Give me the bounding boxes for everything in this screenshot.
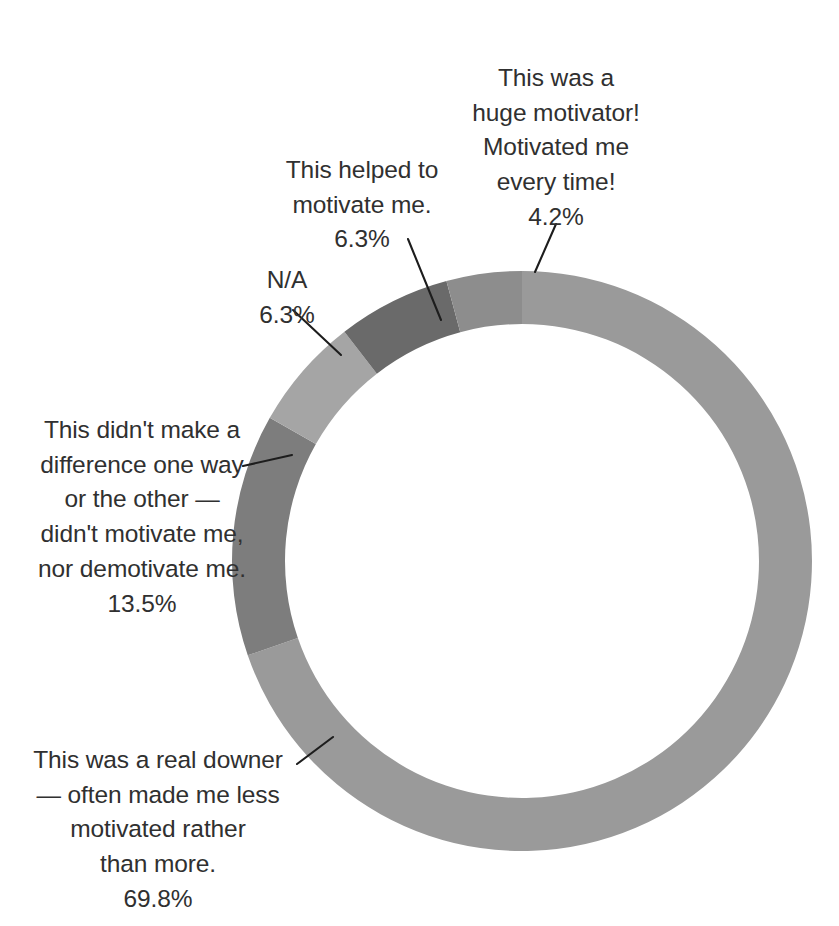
slice-label-real-downer: This was a real downer — often made me l… bbox=[8, 708, 308, 926]
slice-label-text: This helped to motivate me. bbox=[286, 156, 439, 218]
slice-percent: 69.8% bbox=[8, 882, 308, 917]
slice-percent: 4.2% bbox=[438, 200, 674, 235]
slice-label-huge-motivator: This was a huge motivator! Motivated me … bbox=[438, 26, 674, 269]
slice-label-text: This was a real downer — often made me l… bbox=[33, 746, 283, 877]
slice-label-not-applicable: N/A 6.3% bbox=[207, 228, 367, 367]
slice-percent: 6.3% bbox=[207, 298, 367, 333]
slice-label-text: This was a huge motivator! Motivated me … bbox=[472, 64, 639, 195]
slice-percent: 13.5% bbox=[8, 587, 276, 622]
slice-label-text: N/A bbox=[267, 266, 308, 293]
donut-chart: This was a huge motivator! Motivated me … bbox=[0, 0, 839, 926]
slice-label-text: This didn't make a difference one way or… bbox=[38, 416, 246, 582]
slice-label-no-difference: This didn't make a difference one way or… bbox=[8, 378, 276, 656]
